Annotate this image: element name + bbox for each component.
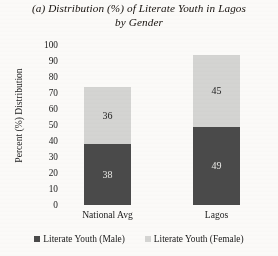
legend-label-female: Literate Youth (Female): [154, 234, 244, 244]
y-tick-40: 40: [24, 137, 58, 146]
y-tick-80: 80: [24, 73, 58, 82]
bar-value-lagos-female: 45: [212, 85, 222, 96]
chart-figure: (a) Distribution (%) of Literate Youth i…: [0, 0, 278, 256]
y-tick-0: 0: [24, 201, 58, 210]
x-tick-label-national-avg: National Avg: [64, 209, 151, 220]
bar-value-national-avg-female: 36: [103, 110, 113, 121]
y-tick-60: 60: [24, 105, 58, 114]
y-axis-ticks: 100 90 80 70 60 50 40 30 20 10 0: [24, 0, 58, 256]
legend-swatch-female-icon: [145, 236, 151, 242]
bar-segment-lagos-male: 49: [193, 127, 240, 205]
bar-segment-lagos-female: 45: [193, 55, 240, 127]
legend-item-female: Literate Youth (Female): [145, 234, 244, 244]
y-tick-20: 20: [24, 169, 58, 178]
bar-national-avg: 36 38: [84, 87, 131, 205]
bar-lagos: 45 49: [193, 55, 240, 205]
legend-swatch-male-icon: [34, 236, 40, 242]
x-tick-label-lagos: Lagos: [176, 209, 257, 220]
y-axis-title: Percent (%) Distribution: [13, 41, 24, 191]
chart-legend: Literate Youth (Male) Literate Youth (Fe…: [0, 234, 278, 244]
legend-item-male: Literate Youth (Male): [34, 234, 125, 244]
bar-segment-national-avg-male: 38: [84, 144, 131, 205]
y-tick-10: 10: [24, 185, 58, 194]
plot-area: Percent (%) Distribution 100 90 80 70 60…: [0, 0, 278, 256]
bar-segment-national-avg-female: 36: [84, 87, 131, 145]
y-tick-90: 90: [24, 57, 58, 66]
bar-value-national-avg-male: 38: [103, 169, 113, 180]
bar-value-lagos-male: 49: [212, 160, 222, 171]
y-tick-70: 70: [24, 89, 58, 98]
y-tick-50: 50: [24, 121, 58, 130]
y-tick-100: 100: [24, 41, 58, 50]
legend-label-male: Literate Youth (Male): [43, 234, 125, 244]
y-tick-30: 30: [24, 153, 58, 162]
